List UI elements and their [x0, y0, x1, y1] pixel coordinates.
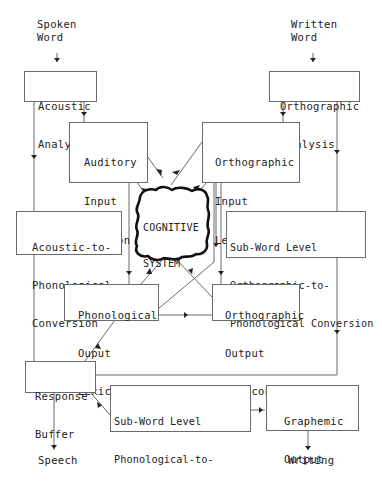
spoken-word-line-1: Spoken	[37, 18, 77, 31]
node-label: COGNITIVE	[143, 222, 199, 234]
written-word-line-1: Written	[291, 18, 337, 31]
node-label: Output	[225, 347, 304, 360]
input-spoken-word: Spoken Word	[37, 18, 77, 43]
node-subword-phonological-to-orthographic-conversion: Sub-Word Level Phonological-to- Orthogra…	[110, 385, 251, 432]
output-speech: Speech	[38, 454, 78, 467]
node-orthographic-analysis: Orthographic Analysis	[269, 71, 360, 102]
input-written-word: Written Word	[291, 18, 337, 43]
written-word-line-2: Word	[291, 31, 337, 44]
node-label: Ouput	[78, 347, 157, 360]
node-auditory-input-lexicon: Auditory Input Lexicon	[69, 122, 148, 183]
node-label: Sub-Word Level	[114, 416, 257, 429]
output-writing: Writing	[288, 454, 334, 467]
node-label: Acoustic	[38, 100, 91, 113]
node-label: Graphemic	[284, 415, 344, 428]
node-label: Acoustic-to-	[32, 241, 111, 254]
node-label: Orthographic	[225, 309, 304, 322]
node-label: Phonological-to-	[114, 454, 257, 467]
node-label: Phonological	[78, 309, 157, 322]
node-label: Response	[35, 390, 88, 403]
arrowhead-icon	[54, 58, 60, 62]
node-orthographic-input-lexicon: Orthographic Input Lexicon	[202, 122, 300, 183]
node-response-buffer: Response Buffer	[25, 361, 96, 393]
node-acoustic-to-phonological-conversion: Acoustic-to- Phonological Conversion	[16, 211, 122, 255]
node-graphemic-output-buffer: Graphemic Output Buffer	[266, 385, 359, 431]
node-label: Orthographic	[215, 156, 294, 169]
node-label: Orthographic	[280, 100, 359, 113]
arrowhead-icon	[310, 58, 316, 62]
node-label: SYSTEM	[143, 258, 199, 270]
node-cognitive-system: COGNITIVE SYSTEM	[143, 198, 199, 282]
node-phonological-output-lexicon: Phonological Ouput Lexicon	[64, 284, 159, 321]
spoken-word-line-2: Word	[37, 31, 77, 44]
node-label: Input	[215, 195, 294, 208]
node-label: Sub-Word Level	[230, 242, 373, 255]
node-label: Auditory	[84, 156, 137, 169]
node-label: Buffer	[35, 428, 88, 441]
node-orthographic-output-lexicon: Orthographic Output Lexicon	[212, 284, 300, 321]
node-label: Input	[84, 195, 137, 208]
node-acoustic-analysis: Acoustic Analysis	[24, 71, 97, 102]
node-subword-orthographic-to-phonological-conversion: Sub-Word Level Orthographic-to- Phonolog…	[226, 211, 366, 258]
